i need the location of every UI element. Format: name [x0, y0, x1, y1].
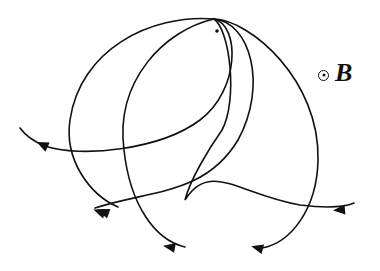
source-dot: [215, 29, 219, 33]
arrowhead-icon: [35, 138, 50, 152]
trajectory-t4: [214, 19, 318, 248]
trajectory-t2: [123, 19, 214, 247]
trajectory-group: [20, 19, 354, 248]
trajectory-t5: [95, 19, 253, 208]
magnetic-field-label: B: [318, 58, 352, 88]
magnetic-field-trajectory-diagram: [0, 0, 380, 271]
trajectory-t7: [185, 19, 354, 207]
out-of-page-field-icon: [318, 70, 329, 81]
arrowhead-group: [35, 138, 346, 255]
arrowhead-icon: [250, 241, 264, 254]
field-symbol-B: B: [335, 58, 352, 88]
